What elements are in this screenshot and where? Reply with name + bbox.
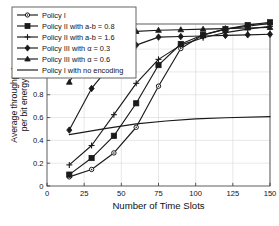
y-tick-label: 0.8 [33, 90, 44, 99]
x-tick-label: 75 [154, 189, 162, 198]
marker-square [134, 101, 139, 106]
y-tick-label: 0 [39, 182, 43, 191]
marker-circle-dot [91, 169, 93, 171]
y-axis-label-line2: per bit energy [19, 78, 29, 131]
y-tick-label: 0.2 [33, 159, 44, 168]
marker-square [156, 62, 161, 67]
legend-label-1: Policy II with a-b = 0.8 [42, 22, 115, 31]
legend-label-2: Policy II with a-b = 1.6 [42, 33, 115, 42]
marker-circle-dot [27, 14, 29, 16]
x-tick-label: 0 [45, 189, 49, 198]
x-axis-label: Number of Time Slots [112, 200, 204, 211]
x-tick-label: 50 [117, 189, 125, 198]
marker-square [25, 24, 30, 29]
x-tick-label: 125 [226, 189, 239, 198]
y-tick-label: 0.4 [33, 136, 44, 145]
legend-label-4: Policy III with α = 0.6 [42, 55, 110, 64]
marker-circle-dot [113, 152, 115, 154]
legend-label-0: Policy I [42, 11, 66, 20]
line-chart: 025507510012515000.20.40.60.811.2Number … [0, 0, 279, 226]
x-tick-label: 150 [264, 189, 277, 198]
legend-label-5: Policy I with no encoding [42, 66, 123, 75]
marker-square [67, 172, 72, 177]
x-tick-label: 100 [189, 189, 202, 198]
chart-figure: 025507510012515000.20.40.60.811.2Number … [0, 0, 279, 226]
marker-square [111, 133, 116, 138]
x-tick-label: 25 [80, 189, 88, 198]
legend-label-3: Policy III with α = 0.3 [42, 44, 110, 53]
marker-circle-dot [135, 126, 137, 128]
y-tick-label: 0.6 [33, 113, 44, 122]
marker-circle-dot [158, 85, 160, 87]
marker-square [89, 155, 94, 160]
legend: Policy IPolicy II with a-b = 0.8Policy I… [12, 7, 136, 78]
